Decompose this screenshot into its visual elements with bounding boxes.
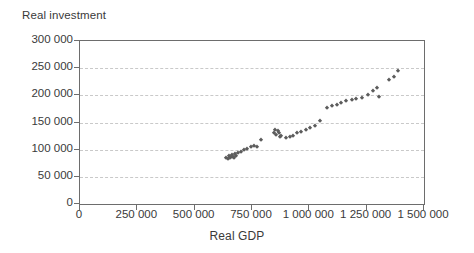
data-point (317, 118, 322, 123)
x-axis-title: Real GDP (0, 229, 474, 243)
y-axis-tick-mark (74, 122, 79, 123)
scatter-chart: Real investment 050 000100 000150 000200… (0, 0, 474, 253)
y-axis-tick-mark (74, 203, 79, 204)
y-axis-tick-mark (74, 149, 79, 150)
y-axis-tick-mark (74, 176, 79, 177)
x-axis-tick-mark (136, 205, 137, 210)
x-axis-tick-mark (366, 205, 367, 210)
data-point (344, 99, 349, 104)
y-axis-tick-mark (74, 67, 79, 68)
y-axis-tick-label: 150 000 (31, 116, 73, 128)
x-axis-tick-mark (423, 205, 424, 210)
data-point (371, 89, 376, 94)
data-point (299, 130, 304, 135)
y-axis-tick-label: 200 000 (31, 89, 73, 101)
data-point (387, 78, 392, 83)
y-axis-tick-labels: 050 000100 000150 000200 000250 000300 0… (0, 40, 73, 205)
data-point (376, 95, 381, 100)
x-axis-tick-mark (308, 205, 309, 210)
data-point (313, 124, 318, 129)
data-point (396, 68, 401, 73)
data-points-layer (80, 41, 424, 204)
x-axis-tick-labels: 0250 000500 000750 0001 000 0001 250 000… (79, 208, 425, 224)
data-point (365, 93, 370, 98)
plot-area (79, 40, 425, 205)
y-axis-tick-mark (74, 40, 79, 41)
x-axis-tick-mark (251, 205, 252, 210)
data-point (354, 96, 359, 101)
y-axis-tick-label: 300 000 (31, 34, 73, 46)
y-axis-title: Real investment (22, 9, 106, 21)
y-axis-tick-label: 250 000 (31, 61, 73, 73)
data-point (324, 106, 329, 111)
data-point (259, 138, 264, 143)
x-axis-tick-mark (79, 205, 80, 210)
y-axis-tick-label: 0 (67, 197, 73, 209)
x-axis-tick-mark (194, 205, 195, 210)
y-axis-tick-mark (74, 94, 79, 95)
data-point (391, 74, 396, 79)
y-axis-tick-label: 100 000 (31, 143, 73, 155)
data-point (255, 145, 260, 150)
y-axis-tick-label: 50 000 (38, 170, 73, 182)
data-point (359, 95, 364, 100)
